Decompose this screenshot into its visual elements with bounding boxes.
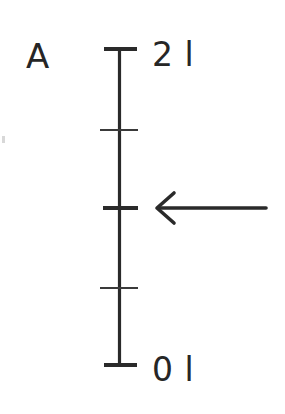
scan-speck-artifact [2, 136, 5, 143]
measuring-scale-diagram: A 2 l 0 l [0, 0, 285, 414]
scale-label-top: 2 l [152, 35, 194, 74]
scale-label-bottom: 0 l [152, 350, 194, 389]
figure-canvas: A 2 l 0 l [0, 0, 285, 414]
panel-label: A [26, 36, 50, 76]
left-arrow-icon [157, 193, 266, 223]
